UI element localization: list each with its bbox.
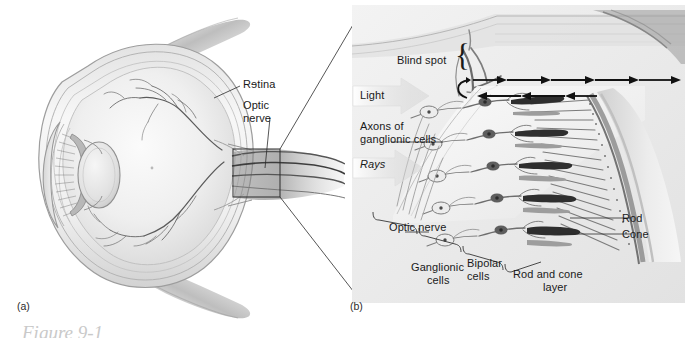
label-ganglionic-line1: Ganglionic [411, 261, 464, 274]
macula-spot [151, 167, 154, 170]
label-light: Light [360, 89, 384, 102]
panel-a-eyeball-section: Rɘtina Optic nerve (a) [0, 0, 345, 338]
label-ganglionic-line2: cells [427, 274, 450, 287]
figure-caption-cropped: Figure 9-1 [22, 322, 103, 338]
label-bipolar-line2: cells [467, 270, 490, 283]
lens [78, 142, 120, 208]
label-optic-nerve-a-line1: Optic [243, 99, 269, 112]
label-axons-line2: ganglionic cells [360, 133, 436, 146]
label-blind-spot: Blind spot [397, 54, 446, 67]
label-retina: Rɘtina [243, 78, 275, 91]
panel-b-letter: (b) [350, 300, 363, 312]
label-cone: Cone [622, 228, 649, 241]
label-rays: Rays [360, 158, 385, 171]
label-rod-and-cone-line1: Rod and cone [513, 268, 583, 281]
label-bipolar-line1: Bipolar [467, 257, 502, 270]
panel-a-letter: (a) [17, 300, 30, 312]
label-rod-and-cone-line2: layer [543, 281, 567, 294]
blind-spot-brace: { [455, 40, 470, 71]
retina-microstructure-illustration [345, 0, 685, 338]
label-optic-nerve-b: Optic nerve [389, 221, 446, 234]
eyeball-illustration [0, 0, 345, 338]
label-optic-nerve-a-line2: nerve [243, 112, 271, 125]
panel-b-retina-detail: Blind spot { Light Axons of ganglionic c… [345, 0, 685, 338]
figure-eye-anatomy: Rɘtina Optic nerve (a) [0, 0, 685, 338]
label-rod: Rod [622, 212, 642, 225]
label-axons-line1: Axons of [360, 120, 404, 133]
